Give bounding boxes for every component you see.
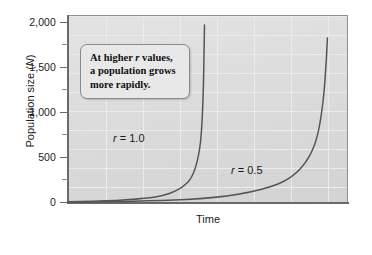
gridline-horizontal	[69, 149, 347, 150]
y-axis-title-suffix: )	[24, 55, 36, 59]
curve-label-r-1-0: r = 1.0	[113, 132, 145, 144]
y-axis-tick-0	[60, 202, 68, 203]
callout-line-1-suffix: values,	[139, 52, 172, 63]
gridline-vertical	[328, 16, 329, 202]
gridline-horizontal	[69, 35, 347, 36]
callout-line-2: a population grows	[90, 64, 181, 77]
callout-line-1: At higher r values,	[90, 51, 181, 64]
curve-label-r-0-5: r = 0.5	[231, 164, 263, 176]
gridline-vertical	[291, 16, 292, 202]
gridline-horizontal	[69, 168, 347, 169]
population-growth-figure: 2,000 1,500 1,000 500 0 Population size …	[0, 0, 372, 255]
y-axis-title-prefix: Population size (	[24, 66, 36, 147]
gridline-horizontal	[69, 187, 347, 188]
gridline-vertical	[217, 16, 218, 202]
curve-label-value: = 0.5	[235, 164, 263, 176]
curve-label-value: = 1.0	[117, 132, 145, 144]
y-axis-label-0: 0	[50, 196, 56, 208]
y-axis-tick-minor	[62, 44, 68, 45]
y-axis-tick-minor	[62, 134, 68, 135]
x-axis-title: Time	[68, 213, 348, 225]
callout-line-3: more rapidly.	[90, 78, 181, 91]
callout-annotation: At higher r values, a population grows m…	[80, 44, 190, 99]
y-axis-tick-1500	[60, 67, 68, 68]
y-axis-label-500: 500	[38, 151, 56, 163]
y-axis-tick-1000	[60, 112, 68, 113]
y-axis-tick-500	[60, 157, 68, 158]
gridline-horizontal	[69, 111, 347, 112]
gridline-horizontal	[69, 130, 347, 131]
y-axis-tick-2000	[60, 22, 68, 23]
gridline-horizontal	[69, 16, 347, 17]
y-axis-tick-minor	[62, 89, 68, 90]
y-axis-title-symbol: N	[24, 58, 36, 66]
callout-line-1-prefix: At higher	[90, 52, 135, 63]
x-axis-line	[67, 202, 349, 204]
y-axis-title: Population size (N)	[24, 21, 36, 181]
y-axis-tick-minor	[62, 179, 68, 180]
